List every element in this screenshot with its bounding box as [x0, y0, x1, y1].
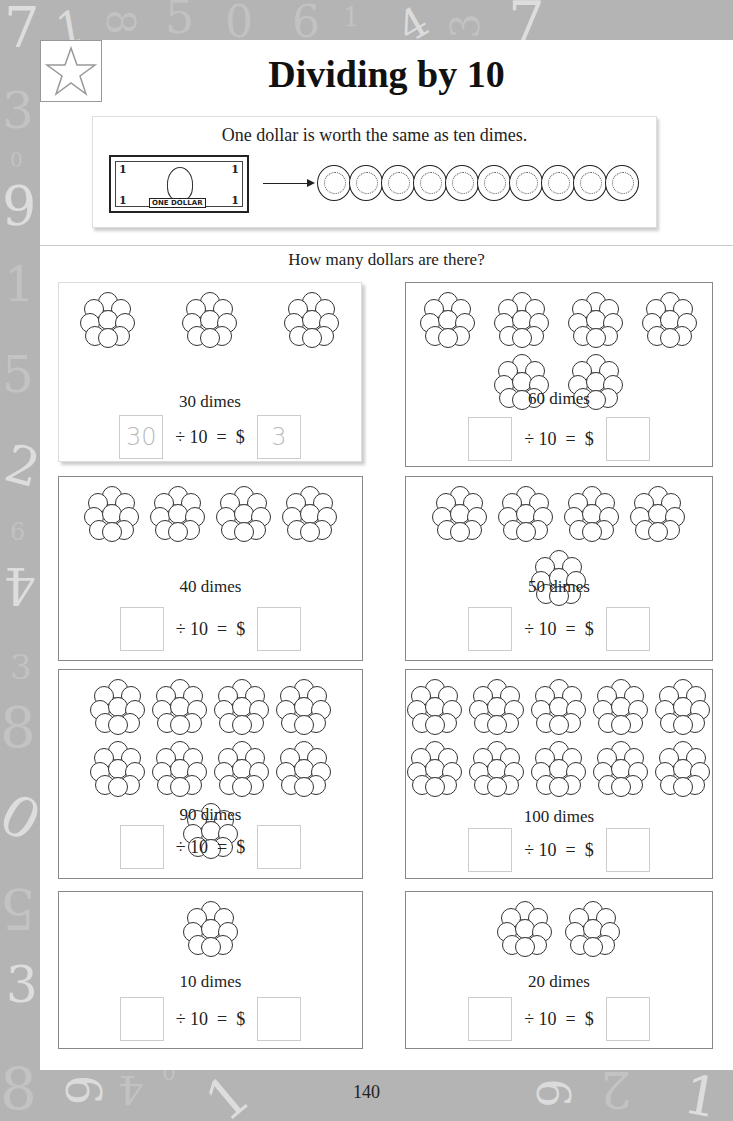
dime-stack-icon — [629, 485, 687, 543]
dime-stack-icon — [592, 678, 650, 736]
dollar-bill-icon: 1 1 1 1 ONE DOLLAR — [109, 155, 249, 213]
background-digit: 6 — [292, 0, 320, 44]
background-digit: 8 — [0, 700, 36, 756]
dimes-count-label: 10 dimes — [59, 972, 362, 992]
dividend-answer-box[interactable] — [468, 997, 512, 1041]
intro-panel: One dollar is worth the same as ten dime… — [92, 116, 657, 228]
dividend-answer-box[interactable] — [120, 825, 164, 869]
divide-by-ten-text: ÷ 10 = $ — [524, 840, 594, 861]
dividend-answer-box[interactable] — [468, 607, 512, 651]
dime-stack-icon — [275, 678, 333, 736]
dimes-count-label: 60 dimes — [406, 389, 712, 409]
dollar-answer-box[interactable] — [606, 997, 650, 1041]
division-equation: 30÷ 10 = $3 — [59, 415, 361, 459]
dime-stack-icon — [468, 678, 526, 736]
dime-clusters — [406, 900, 712, 958]
dime-icon — [477, 165, 511, 201]
problem-card: 50 dimes÷ 10 = $ — [405, 476, 713, 661]
background-digit: 5 — [2, 350, 34, 400]
division-equation: ÷ 10 = $ — [406, 828, 712, 872]
dollar-answer-box[interactable]: 3 — [257, 415, 301, 459]
dollar-answer-box[interactable] — [257, 825, 301, 869]
dividend-answer-box[interactable]: 30 — [119, 415, 163, 459]
background-digit: 3 — [445, 13, 485, 38]
dividend-answer-box[interactable] — [120, 607, 164, 651]
portrait-icon — [167, 167, 193, 201]
page-title: Dividing by 10 — [40, 52, 733, 96]
dime-stack-icon — [567, 291, 625, 349]
dimes-count-label: 100 dimes — [406, 807, 712, 827]
dividend-answer-box[interactable] — [468, 828, 512, 872]
background-digit: 6 — [10, 520, 25, 544]
dime-icon — [349, 165, 383, 201]
question-text: How many dollars are there? — [40, 250, 733, 270]
division-equation: ÷ 10 = $ — [59, 997, 362, 1041]
dime-icon — [509, 165, 543, 201]
divide-by-ten-text: ÷ 10 = $ — [176, 619, 246, 640]
dime-icon — [413, 165, 447, 201]
dime-stack-icon — [530, 740, 588, 798]
background-digit: 5 — [165, 0, 194, 40]
dime-stack-icon — [213, 678, 271, 736]
example-problem-card: 30 dimes30÷ 10 = $3 — [58, 282, 362, 462]
dime-stack-icon — [530, 678, 588, 736]
dime-row — [317, 165, 637, 201]
page-number: 140 — [0, 1082, 733, 1103]
dime-stack-icon — [281, 485, 339, 543]
dime-stack-icon — [592, 740, 650, 798]
background-digit: 4 — [4, 560, 36, 610]
background-digit: 2 — [0, 437, 45, 496]
background-digit: 0 — [225, 0, 253, 44]
dime-stack-icon — [149, 485, 207, 543]
dime-stack-icon — [89, 740, 147, 798]
bill-label: ONE DOLLAR — [149, 198, 206, 208]
dimes-count-label: 50 dimes — [406, 577, 712, 597]
divide-by-ten-text: ÷ 10 = $ — [176, 837, 246, 858]
background-digit: 1 — [343, 4, 360, 30]
dimes-count-label: 30 dimes — [59, 392, 361, 412]
dimes-count-label: 40 dimes — [59, 577, 362, 597]
dividend-answer-box[interactable] — [120, 997, 164, 1041]
dollar-answer-box[interactable] — [606, 417, 650, 461]
dime-stack-icon — [496, 900, 554, 958]
problem-card: 60 dimes÷ 10 = $ — [405, 282, 713, 467]
dime-icon — [605, 165, 639, 201]
problem-card: 90 dimes÷ 10 = $ — [58, 669, 363, 879]
dimes-count-label: 90 dimes — [59, 805, 362, 825]
dollar-answer-box[interactable] — [606, 828, 650, 872]
problem-card: 40 dimes÷ 10 = $ — [58, 476, 363, 661]
dime-icon — [541, 165, 575, 201]
dime-icon — [573, 165, 607, 201]
division-equation: ÷ 10 = $ — [406, 607, 712, 651]
background-digit: 5 — [0, 880, 36, 936]
dime-stack-icon — [181, 291, 239, 349]
dime-stack-icon — [654, 678, 712, 736]
division-equation: ÷ 10 = $ — [59, 607, 362, 651]
divide-by-ten-text: ÷ 10 = $ — [175, 427, 245, 448]
dime-stack-icon — [497, 485, 555, 543]
dollar-answer-box[interactable] — [257, 607, 301, 651]
dime-stack-icon — [468, 740, 526, 798]
problem-card: 100 dimes÷ 10 = $ — [405, 669, 713, 879]
background-digit: 3 — [10, 650, 32, 684]
dividend-answer-box[interactable] — [468, 417, 512, 461]
dime-stack-icon — [564, 900, 622, 958]
dime-stack-icon — [83, 485, 141, 543]
dime-stack-icon — [182, 900, 240, 958]
background-digit: 0 — [10, 150, 23, 170]
arrow-right-icon — [263, 183, 313, 184]
background-digit: 3 — [2, 86, 34, 136]
dime-clusters — [59, 485, 362, 543]
dime-stack-icon — [275, 740, 333, 798]
dollar-answer-box[interactable] — [606, 607, 650, 651]
dime-icon — [317, 165, 351, 201]
background-digit: 8 — [101, 9, 141, 34]
dime-stack-icon — [79, 291, 137, 349]
dime-stack-icon — [654, 740, 712, 798]
dollar-answer-box[interactable] — [257, 997, 301, 1041]
division-equation: ÷ 10 = $ — [406, 417, 712, 461]
dime-stack-icon — [493, 291, 551, 349]
dime-stack-icon — [89, 678, 147, 736]
dime-clusters — [406, 678, 712, 798]
dime-stack-icon — [641, 291, 699, 349]
